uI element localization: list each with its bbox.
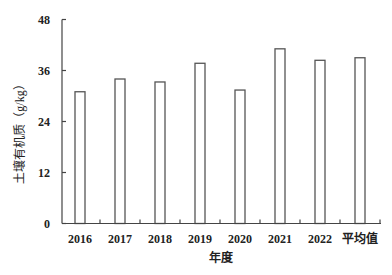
y-axis-label: 土壤有机质（g/kg） <box>12 78 27 183</box>
x-tick-label: 平均值 <box>342 231 378 246</box>
x-tick-label: 2018 <box>148 232 172 246</box>
y-tick-label: 36 <box>38 64 50 78</box>
y-tick-label: 24 <box>38 115 50 129</box>
x-tick-label: 2017 <box>108 232 132 246</box>
x-tick-label: 2020 <box>228 232 252 246</box>
bar-2016 <box>75 92 85 224</box>
bars <box>75 49 365 224</box>
y-tick-label: 12 <box>38 166 50 180</box>
bar-2021 <box>275 49 285 224</box>
axes <box>62 20 381 224</box>
bar-2018 <box>155 82 165 224</box>
x-tick-label: 2022 <box>308 232 332 246</box>
bar-2020 <box>235 90 245 223</box>
y-tick-label: 0 <box>44 217 50 231</box>
bar-2019 <box>195 63 205 223</box>
bar-平均值 <box>355 58 365 224</box>
tick-labels: 0122436482016201720182019202020212022平均值 <box>38 13 378 246</box>
bar-2022 <box>315 60 325 223</box>
y-tick-label: 48 <box>38 13 50 27</box>
x-tick-label: 2019 <box>188 232 212 246</box>
x-tick-label: 2016 <box>68 232 92 246</box>
x-axis-label: 年度 <box>209 250 234 265</box>
bar-chart: 0122436482016201720182019202020212022平均值… <box>0 0 392 275</box>
x-tick-label: 2021 <box>268 232 292 246</box>
bar-2017 <box>115 79 125 224</box>
